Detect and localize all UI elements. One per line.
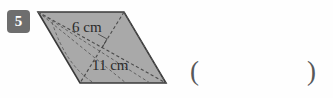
base-length-label: 11 cm bbox=[92, 58, 129, 73]
answer-blank[interactable]: ( ) bbox=[186, 56, 320, 88]
question-number-badge: 5 bbox=[7, 10, 30, 33]
side-length-label: 6 cm bbox=[72, 20, 102, 35]
worksheet-question: 5 6 cm 11 cm ( ) bbox=[0, 0, 333, 98]
close-paren: ) bbox=[307, 56, 316, 86]
open-paren: ( bbox=[190, 56, 199, 86]
rhombus-svg bbox=[30, 4, 180, 94]
answer-input-area[interactable] bbox=[204, 60, 302, 84]
rhombus-figure bbox=[30, 4, 180, 94]
